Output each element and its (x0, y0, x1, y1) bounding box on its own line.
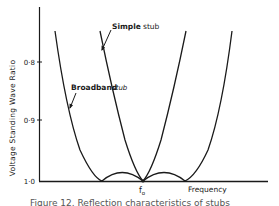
simple-stub-label: Simple (112, 22, 141, 31)
f0-label: fo (139, 186, 146, 196)
broadband-stub-label-2: stub (112, 84, 128, 92)
y-axis-title: Voltage Standing Wave Ratio (8, 60, 17, 177)
vswr-chart: 0·8 0·9 1·0 Voltage Standing Wave Ratio … (0, 0, 279, 206)
simple-stub-label-2: stub (143, 22, 160, 31)
y-tick-label-0.9: 0·9 (24, 117, 35, 125)
figure-caption: Figure 12. Reflection characteristics of… (30, 199, 260, 206)
broadband-stub-label: Broadband (71, 83, 117, 92)
x-axis-title: Frequency (188, 185, 227, 194)
y-tick-label-1.0: 1·0 (24, 178, 35, 186)
y-tick-label-0.8: 0·8 (24, 59, 35, 67)
f0-marker (141, 179, 144, 182)
broadband-stub-curve (55, 31, 232, 181)
simple-stub-curve (100, 31, 186, 181)
